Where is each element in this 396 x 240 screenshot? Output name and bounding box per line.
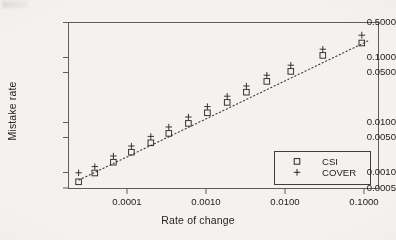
- y-tick-label: 0.1000: [334, 51, 396, 62]
- x-axis-ticks: [127, 189, 364, 195]
- y-tick-label: 0.5000: [334, 16, 396, 27]
- marker-cover: [243, 83, 249, 89]
- marker-cover: [264, 72, 270, 78]
- data-point-pair: [75, 170, 81, 185]
- marker-csi: [166, 131, 172, 137]
- marker-csi: [111, 159, 117, 165]
- y-tick-label: 0.0005: [334, 182, 396, 193]
- marker-cover: [148, 133, 154, 139]
- marker-cover: [128, 143, 134, 149]
- legend-label-csi: CSI: [322, 156, 338, 167]
- data-point-pair: [166, 124, 172, 136]
- data-point-pair: [320, 46, 326, 58]
- marker-cover: [288, 62, 294, 68]
- marker-cover: [204, 103, 210, 109]
- marker-csi: [264, 79, 270, 85]
- y-tick-label: 0.0100: [334, 116, 396, 127]
- y-axis-title: Mistake rate: [6, 71, 18, 151]
- marker-cover: [166, 124, 172, 130]
- data-point-pair: [358, 32, 365, 46]
- data-point-pair: [288, 62, 294, 74]
- y-tick-label: 0.0500: [334, 66, 396, 77]
- legend-label-cover: COVER: [322, 167, 356, 178]
- marker-csi: [205, 110, 211, 116]
- marker-csi: [224, 100, 230, 106]
- y-tick-label: 0.0050: [334, 131, 396, 142]
- marker-csi: [148, 140, 154, 146]
- marker-cover: [224, 93, 230, 99]
- marker-cover: [185, 114, 191, 120]
- marker-csi: [320, 53, 326, 59]
- x-tick-label: 0.0010: [171, 196, 241, 207]
- marker-cover: [92, 163, 98, 169]
- data-point-pair: [243, 83, 249, 95]
- x-tick-label: 0.1000: [329, 196, 396, 207]
- marker-cover: [320, 46, 326, 52]
- data-point-pair: [264, 72, 270, 84]
- marker-csi: [129, 149, 135, 155]
- y-axis-ticks: [63, 23, 69, 189]
- x-axis-title: Rate of change: [0, 214, 396, 226]
- marker-csi: [288, 69, 294, 75]
- marker-cover: [358, 32, 365, 39]
- marker-cover: [110, 153, 116, 159]
- data-point-pair: [224, 93, 230, 105]
- marker-csi: [186, 121, 192, 127]
- marker-csi: [244, 89, 250, 95]
- x-tick-label: 0.0100: [250, 196, 320, 207]
- data-point-pair: [148, 133, 154, 145]
- data-point-pair: [185, 114, 191, 126]
- x-tick-label: 0.0001: [92, 196, 162, 207]
- figure: 0.5000 0.1000 0.0500 0.0100 0.0050 0.001…: [0, 0, 396, 240]
- data-point-pair: [204, 103, 210, 115]
- marker-cover: [75, 170, 81, 176]
